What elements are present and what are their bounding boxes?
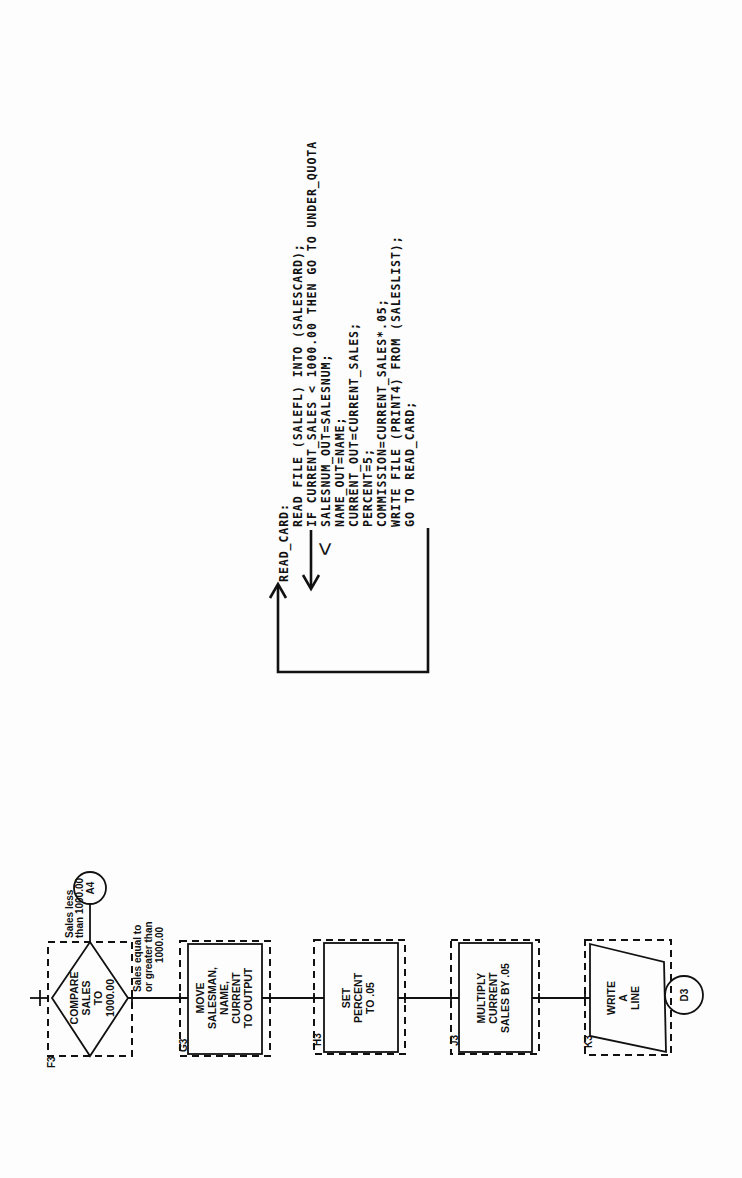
branch-greater-label-1: Sales equal to [132, 925, 143, 992]
j3-text-3: SALES BY .05 [499, 963, 511, 1033]
block-f3-decision: F3 COMPARE SALES TO 1000.00 [46, 942, 132, 1068]
block-id-f3: F3 [46, 1056, 57, 1068]
k3-text-2: A [617, 994, 629, 1002]
f3-text-2: SALES [80, 980, 92, 1015]
branch-greater-label-2: or greater than [143, 921, 154, 992]
flowchart: F3 COMPARE SALES TO 1000.00 A4 Sales les… [30, 872, 703, 1068]
code-line-8: WRITE FILE (PRINT4) FROM (SALESLIST); [389, 235, 403, 527]
j3-text-2: CURRENT [487, 972, 499, 1024]
block-id-h3: H3 [312, 1033, 323, 1046]
code-label: READ_CARD: [277, 503, 292, 582]
code-line-7: COMMISSION=CURRENT_SALES*.05; [375, 298, 390, 527]
branch-less-than: A4 Sales less than 1000.00 [64, 872, 106, 942]
branch-arrow: < [303, 530, 338, 589]
f3-text-3: TO [92, 991, 104, 1005]
code-line-1: READ FILE (SALEFL) INTO (SALESCARD); [291, 243, 305, 527]
h3-text-1: SET [340, 987, 352, 1008]
g3-text-3: NAME, [218, 981, 230, 1015]
g3-text-2: SALESMAN, [206, 967, 218, 1029]
h3-text-2: PERCENT [352, 972, 364, 1023]
connector-a4-label: A4 [85, 881, 96, 894]
g3-text-5: TO OUTPUT [242, 967, 254, 1028]
f3-text-1: COMPARE [68, 972, 80, 1025]
k3-text-1: WRITE [605, 981, 617, 1015]
block-g3-process: G3 MOVE SALESMAN, NAME, CURRENT TO OUTPU… [178, 941, 270, 1056]
branch-less-label-2: than 1000.00 [74, 878, 85, 938]
code-line-5: CURRENT_OUT=CURRENT_SALES; [347, 322, 362, 527]
code-line-2: IF CURRENT_SALES < 1000.00 THEN GO TO UN… [305, 141, 320, 527]
block-k3-io: K3 WRITE A LINE D3 [583, 940, 703, 1055]
g3-text-1: MOVE [194, 983, 206, 1014]
block-id-k3: K3 [583, 1035, 594, 1048]
document-page: READ_CARD: READ FILE (SALEFL) INTO (SALE… [0, 0, 742, 1178]
k3-text-3: LINE [629, 986, 641, 1010]
block-h3-process: H3 SET PERCENT TO .05 [312, 940, 405, 1054]
branch-greater: Sales equal to or greater than 1000.00 [132, 921, 165, 992]
branch-greater-label-3: 1000.00 [154, 926, 165, 963]
block-id-g3: G3 [178, 1038, 189, 1052]
loop-arrow [270, 528, 428, 672]
block-id-j3: J3 [449, 1034, 460, 1046]
f3-text-4: 1000.00 [104, 979, 116, 1017]
code-line-9: GO TO READ_CARD; [403, 401, 418, 527]
block-j3-process: J3 MULTIPLY CURRENT SALES BY .05 [449, 940, 539, 1054]
code-line-4: NAME_OUT=NAME; [333, 417, 348, 527]
connector-d3-label: D3 [679, 988, 690, 1001]
h3-text-3: TO .05 [364, 982, 376, 1014]
code-line-3: SALESNUM_OUT=SALESNUM; [319, 354, 334, 527]
scanned-page-canvas: READ_CARD: READ FILE (SALEFL) INTO (SALE… [0, 0, 742, 1178]
g3-text-4: CURRENT [230, 972, 242, 1024]
code-line-6: PERCENT=5; [361, 448, 375, 527]
code-listing: READ_CARD: READ FILE (SALEFL) INTO (SALE… [277, 141, 418, 582]
less-than-marker: < [311, 542, 338, 556]
j3-text-1: MULTIPLY [475, 973, 487, 1024]
svg-text:COMPARE: COMPARE [68, 972, 80, 1025]
